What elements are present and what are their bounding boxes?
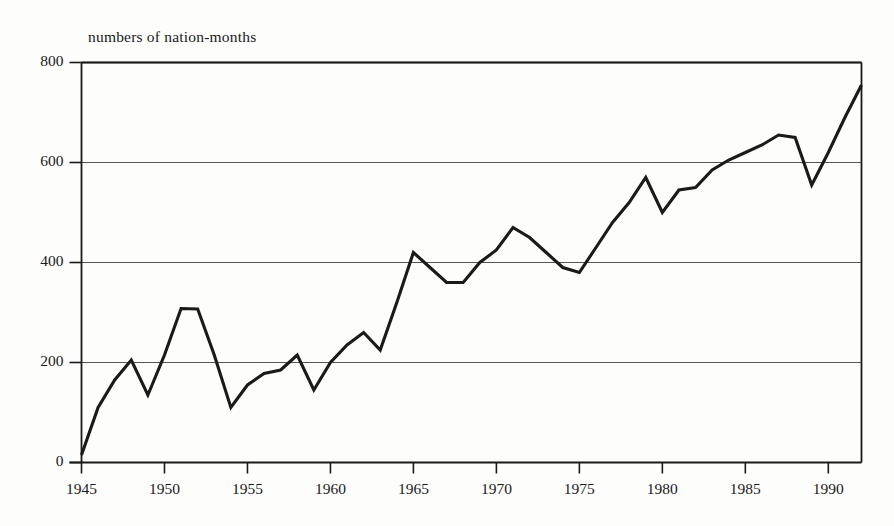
chart-figure: numbers of nation-months 0200400600800 1…	[0, 0, 894, 526]
y-tick-label-0: 0	[12, 452, 64, 470]
x-tick-label-1970: 1970	[466, 480, 526, 498]
y-tick-label-600: 600	[12, 152, 64, 170]
data-series-line	[82, 85, 862, 455]
x-tick-label-1960: 1960	[300, 480, 360, 498]
x-tick-label-1945: 1945	[52, 480, 112, 498]
y-tick-label-200: 200	[12, 352, 64, 370]
x-tick-label-1975: 1975	[549, 480, 609, 498]
x-tick-label-1980: 1980	[632, 480, 692, 498]
gridlines-group	[82, 63, 862, 363]
y-tick-label-400: 400	[12, 252, 64, 270]
x-tick-label-1965: 1965	[383, 480, 443, 498]
line-chart-plot	[0, 0, 894, 526]
x-tick-label-1950: 1950	[134, 480, 194, 498]
y-tick-label-800: 800	[12, 52, 64, 70]
x-tick-label-1985: 1985	[715, 480, 775, 498]
x-tick-label-1955: 1955	[217, 480, 277, 498]
tick-marks-group	[70, 63, 829, 474]
x-tick-label-1990: 1990	[798, 480, 858, 498]
